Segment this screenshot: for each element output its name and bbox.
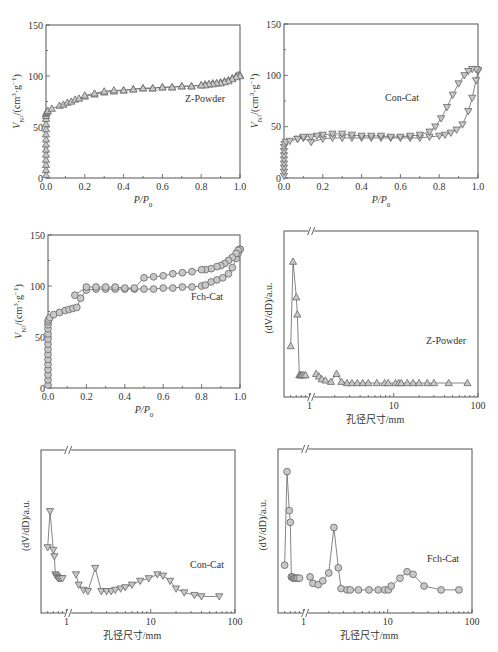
data-point [333,370,340,376]
x-tick-label: 0.6 [156,181,169,192]
data-point [160,285,167,292]
chart-iso-concat: 0.00.20.40.60.81.0050100150Con-CatP/P0VN… [248,19,484,210]
legend-label: Fch-Cat [191,291,223,302]
y-axis-label: (dV/dD)/a.u. [263,282,275,333]
data-point [160,272,167,279]
data-point [179,284,186,291]
data-point [110,87,117,93]
x-tick-label: 1.0 [472,181,485,192]
x-tick-label: 100 [471,400,486,411]
data-point [92,565,99,571]
data-point [71,292,78,299]
data-point [294,311,301,317]
x-tick-label: 0.6 [394,181,407,192]
data-point [93,284,100,291]
data-point [410,571,417,578]
data-point [375,587,382,594]
data-point [338,378,345,384]
x-tick-label: 0.8 [433,181,446,192]
data-point [216,594,223,600]
data-point [366,587,373,594]
data-point [456,587,463,594]
data-point [430,379,437,385]
y-tick-label: 50 [271,121,281,132]
legend-label: Z-Powder [426,335,467,346]
data-point [159,573,166,579]
chart-psd-concat: 110100Con-Cat孔径尺寸/mm(dV/dD)/a.u. [20,446,243,641]
data-point [287,342,294,348]
data-point [319,577,326,584]
chart-psd-fchcat: 110100Fch-Cat孔径尺寸/mm(dV/dD)/a.u. [257,445,480,641]
x-tick-label: 0.6 [157,391,170,402]
data-point [286,507,293,514]
x-tick-label: 1 [64,616,69,627]
data-point [284,468,291,475]
legend-label: Z-Powder [185,93,226,104]
x-tick-label: 0.4 [117,181,130,192]
data-point [169,285,176,292]
x-tick-label: 0.4 [119,391,132,402]
data-point [443,104,450,110]
x-axis-label: 孔径尺寸/mm [103,629,162,641]
data-point [461,73,468,79]
data-point [198,594,205,600]
y-tick-label: 150 [30,230,45,241]
y-tick-label: 100 [266,70,281,81]
y-tick-label: 50 [35,332,45,343]
data-point [355,587,362,594]
data-point [72,572,79,578]
data-point [102,284,109,291]
chart-iso-fchcat: 0.00.20.40.60.81.0050100150Fch-CatP/P0VN… [12,230,246,420]
x-tick-label: 10 [146,616,156,627]
data-point [445,379,452,385]
y-axis-label: VN2/(cm3·g−1) [10,74,26,129]
data-point [172,586,179,592]
data-point [281,562,288,569]
data-point [229,264,236,271]
y-tick-label: 0 [40,383,45,394]
data-point [198,266,205,273]
y-tick-label: 150 [266,19,281,30]
y-tick-label: 50 [33,122,43,133]
x-tick-label: 1.0 [234,391,247,402]
data-point [169,270,176,277]
data-point [365,379,372,385]
data-point [128,582,135,588]
data-point [307,574,314,581]
data-point [330,524,337,531]
series-line-segment-1 [291,262,306,376]
data-point [46,509,53,515]
data-point [139,85,146,91]
y-tick-label: 0 [276,173,281,184]
x-tick-label: 10 [389,400,399,411]
data-point [48,105,55,111]
x-tick-label: 1 [307,400,312,411]
x-tick-label: 0.4 [355,181,368,192]
x-axis-label: P/P0 [133,194,153,209]
data-point [421,583,428,590]
data-point [84,589,91,595]
y-tick-label: 100 [28,71,43,82]
data-point [347,587,354,594]
x-tick-label: 0.8 [195,181,208,192]
y-tick-label: 150 [28,20,43,31]
data-point [289,258,296,264]
x-axis-label: 孔径尺寸/mm [340,629,399,641]
data-point [225,270,232,277]
data-point [121,285,128,292]
data-point [293,294,300,300]
data-point [465,109,472,115]
data-point [296,575,303,582]
data-point [287,519,294,526]
data-point [141,286,148,293]
data-point [51,554,58,560]
data-point [50,547,57,553]
figure-canvas: 0.00.20.40.60.81.0050100150Z-PowderP/P0V… [0,0,498,652]
data-point [131,285,138,292]
x-tick-label: 0.2 [317,181,330,192]
x-tick-label: 0.2 [80,391,93,402]
data-point [438,116,445,122]
data-point [73,304,80,311]
data-point [83,284,90,291]
y-axis-label: VN2/(cm3·g−1) [248,74,264,129]
